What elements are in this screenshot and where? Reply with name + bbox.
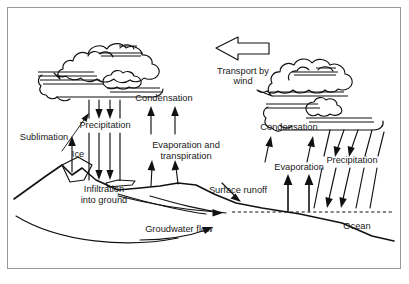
condensation-arrows-left (147, 106, 179, 134)
label-precipitation-right: Precipitation (326, 155, 377, 165)
left-block-arrow-icon (216, 37, 269, 60)
label-evaporation-right: Evaporation (274, 162, 324, 172)
label-condensation-left: Condensation (135, 93, 192, 103)
label-sublimation: Sublimation (20, 132, 69, 142)
cloud-icon-right (257, 59, 383, 131)
label-infiltration-line1: Infiltration (84, 184, 124, 194)
label-surface-runoff: Surface runoff (209, 185, 268, 195)
label-infiltration-line2: into ground (81, 195, 128, 205)
label-condensation-right: Condensation (260, 122, 317, 132)
label-ocean: Ocean (343, 221, 370, 231)
label-precipitation-left: Precipitation (79, 120, 130, 130)
label-ice: Ice (72, 149, 84, 159)
water-cycle-diagram: Sublimation Ice Precipitation Condensati… (0, 0, 409, 284)
evaporation-transpiration-arrows (148, 160, 180, 186)
label-evaporation-transpiration-line2: transpiration (160, 151, 211, 161)
condensation-arrows-right (265, 136, 315, 162)
label-evaporation-transpiration-line1: Evaporation and (152, 140, 220, 150)
evaporation-arrows-right (284, 174, 314, 211)
precipitation-left (89, 100, 120, 180)
label-transport-by-wind-line1: Transport by (217, 66, 269, 76)
water-cycle-figure: Sublimation Ice Precipitation Condensati… (0, 0, 409, 284)
label-transport-by-wind-line2: wind (232, 76, 252, 86)
label-groundwater-flow: Groudwater flow (145, 224, 213, 234)
precipitation-right (314, 130, 384, 208)
